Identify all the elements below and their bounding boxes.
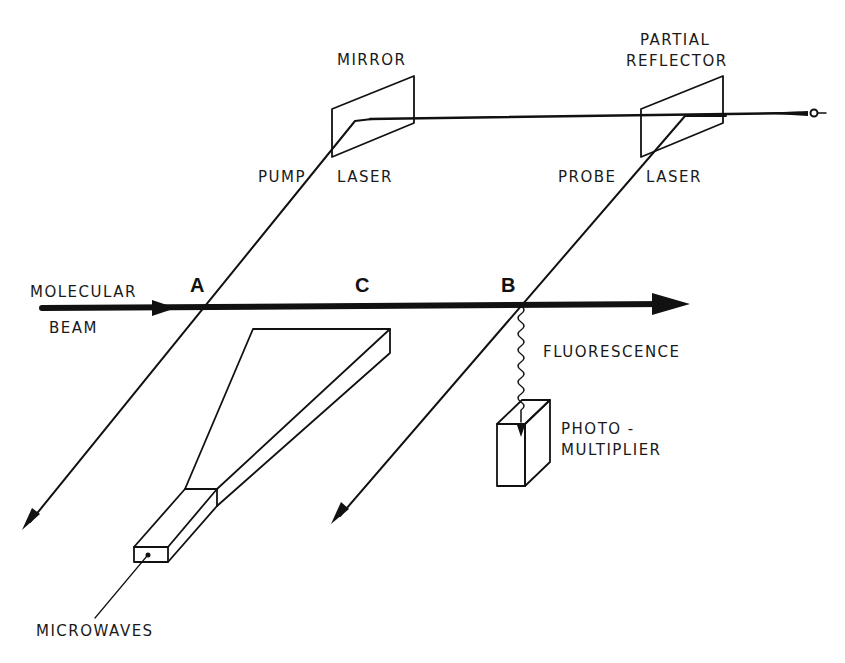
point-b-label: B [501,274,515,296]
partial-reflector-label-1: PARTIAL [640,31,710,49]
beam-arrow-mid-icon [152,300,176,316]
beam-arrow-end-icon [652,293,690,315]
microwave-horn-icon [134,329,390,562]
laser-beam-top [370,113,800,119]
point-c-label: C [355,274,369,296]
beam-label: BEAM [49,319,98,337]
mirror-icon [332,76,414,157]
fluorescence-wave [518,306,524,422]
probe-laser-label: LASER [646,168,702,186]
experiment-diagram: MIRROR PARTIAL REFLECTOR PUMP LASER PROB… [0,0,845,663]
probe-label: PROBE [558,168,617,186]
probe-arrow-icon [331,502,349,524]
multiplier-label: MULTIPLIER [561,441,662,459]
microwaves-label: MICROWAVES [36,622,154,640]
mirror-label: MIRROR [337,51,406,69]
pump-label: PUMP [258,168,306,186]
laser-source-icon-dot [811,110,818,117]
pump-arrow-icon [22,508,40,530]
point-a-label: A [190,274,204,296]
photomultiplier-icon [497,400,550,486]
partial-reflector-label-2: REFLECTOR [626,52,728,70]
microwaves-leader [95,556,147,618]
fluorescence-arrow-icon [517,425,525,437]
fluorescence-label: FLUORESCENCE [543,343,681,361]
molecular-label: MOLECULAR [30,283,137,301]
molecular-beam-line [42,304,665,308]
photo-label: PHOTO - [561,420,635,438]
pump-laser-label: LASER [337,168,393,186]
